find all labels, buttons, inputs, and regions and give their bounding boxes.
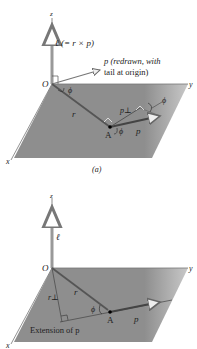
origin-label: O [42,79,49,89]
l-label: ℓ (= r × p) [55,38,94,48]
p-perp-label: p⊥ [119,106,132,115]
x-label: x [5,157,10,166]
l-label: ℓ [56,232,60,242]
extension-label: Extension of p [30,325,80,335]
angular-momentum-diagram: z y x O ℓ (= r × p) p (redrawn, with tai… [0,0,197,349]
point-a-label: A [107,315,114,325]
point-a [108,125,112,129]
p-redrawn-vector [52,70,100,84]
phi-label: ϕ [119,127,123,136]
y-label: y [188,80,193,89]
z-label: z [49,192,53,200]
p-redrawn-label-1: p (redrawn, with [103,56,161,66]
p-redrawn-label-2: tail at origin) [104,67,149,77]
x-label: x [5,341,10,349]
caption-a: (a) [92,165,102,174]
point-a-label: A [105,130,112,140]
origin-label: O [42,263,49,273]
figure-b: z y x O ℓ r⊥ r ϕ A p Extension of p [5,192,193,349]
p-label: p [135,126,141,136]
phi-label: ϕ [68,86,72,95]
r-label: r [72,109,76,119]
phi-label: ϕ [91,305,95,314]
r-label: r [74,287,78,297]
y-label: y [188,264,193,273]
p-label: p [133,314,139,324]
z-label: z [49,10,53,18]
point-a [108,310,112,314]
r-perp-label: r⊥ [48,293,59,302]
figure-a: z y x O ℓ (= r × p) p (redrawn, with tai… [5,10,193,174]
phi-label: ϕ [162,96,166,105]
